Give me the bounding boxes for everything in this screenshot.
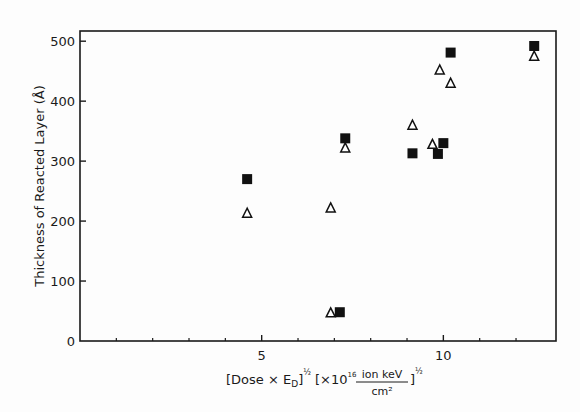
triangle-marker xyxy=(326,203,335,212)
triangle-marker xyxy=(530,51,539,60)
y-tick-label: 300 xyxy=(50,154,75,169)
y-axis-title: Thickness of Reacted Layer (Å) xyxy=(32,85,47,288)
square-marker xyxy=(438,138,448,148)
triangle-marker xyxy=(446,78,455,87)
x-title-bracket-open: [×10 xyxy=(315,372,348,387)
x-title-main: [Dose × E xyxy=(226,372,291,387)
svg-text:[Dose × ED]½[×1016: [Dose × ED]½[×1016 xyxy=(226,368,357,389)
x-title-exp2: ½ xyxy=(415,367,423,376)
square-marker xyxy=(433,149,443,159)
triangle-marker xyxy=(243,208,252,217)
triangle-marker xyxy=(408,120,417,129)
x-title-denominator: cm² xyxy=(371,385,392,398)
triangle-marker xyxy=(326,308,335,317)
x-tick-label: 5 xyxy=(258,348,266,363)
square-marker xyxy=(335,307,345,317)
y-tick-label: 100 xyxy=(50,274,75,289)
square-marker xyxy=(446,48,456,58)
x-title-exp-power: 16 xyxy=(347,371,356,379)
triangle-marker xyxy=(435,65,444,74)
x-axis-title: [Dose × ED]½[×1016 ion keV cm² ]½ xyxy=(226,367,423,398)
plot-frame xyxy=(80,31,556,341)
square-marker xyxy=(242,174,252,184)
square-marker xyxy=(529,41,539,51)
scatter-chart: 0100200300400500 510 Thickness of Reacte… xyxy=(0,0,580,412)
x-title-sub: D xyxy=(291,379,298,389)
y-tick-label: 500 xyxy=(50,34,75,49)
y-tick-label: 200 xyxy=(50,214,75,229)
triangle-marker xyxy=(428,139,437,148)
data-markers xyxy=(242,41,539,317)
square-marker xyxy=(407,148,417,158)
x-tick-label: 10 xyxy=(435,348,452,363)
y-tick-label: 400 xyxy=(50,94,75,109)
y-tick-label: 0 xyxy=(67,334,75,349)
x-title-numerator: ion keV xyxy=(362,368,403,381)
svg-text:]½: ]½ xyxy=(410,367,423,387)
x-axis-ticks: 510 xyxy=(116,335,516,363)
triangle-marker xyxy=(341,143,350,152)
x-title-exp1: ½ xyxy=(303,368,311,377)
